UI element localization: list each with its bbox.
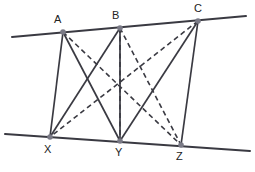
vertex-label-C: C bbox=[194, 2, 202, 14]
vertex-dot-X bbox=[47, 134, 53, 140]
vertex-dot-C bbox=[195, 18, 201, 24]
bottom-line bbox=[5, 134, 250, 151]
vertex-dot-B bbox=[117, 25, 123, 31]
vertex-dot-Y bbox=[117, 138, 123, 144]
geometry-canvas: A B C X Y Z bbox=[0, 0, 255, 172]
vertex-label-Y: Y bbox=[115, 146, 123, 158]
geometry-figure: A B C X Y Z bbox=[0, 0, 255, 172]
segment-CX bbox=[50, 21, 198, 137]
solid-segments-group bbox=[50, 21, 198, 145]
segment-CZ bbox=[181, 21, 198, 145]
vertex-dot-A bbox=[60, 29, 66, 35]
vertex-dot-Z bbox=[178, 142, 184, 148]
vertex-label-Z: Z bbox=[176, 150, 183, 162]
top-line bbox=[12, 16, 246, 37]
dashed-segments-group bbox=[50, 21, 198, 145]
vertex-label-A: A bbox=[54, 13, 62, 25]
vertex-label-X: X bbox=[44, 143, 52, 155]
segment-AY bbox=[63, 32, 120, 141]
vertex-label-B: B bbox=[112, 9, 119, 21]
